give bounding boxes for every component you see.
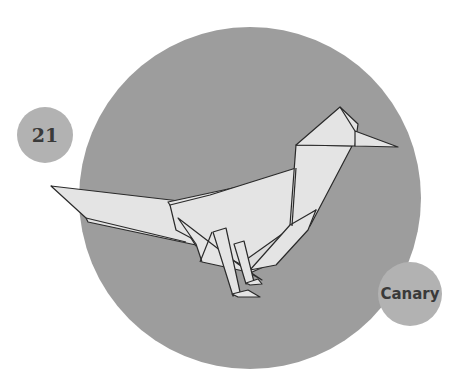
origami-page: 21 Canary [0, 0, 458, 387]
model-name-badge: Canary [378, 262, 442, 326]
page-number: 21 [32, 124, 58, 146]
page-number-badge: 21 [17, 107, 73, 163]
model-name: Canary [380, 285, 439, 303]
